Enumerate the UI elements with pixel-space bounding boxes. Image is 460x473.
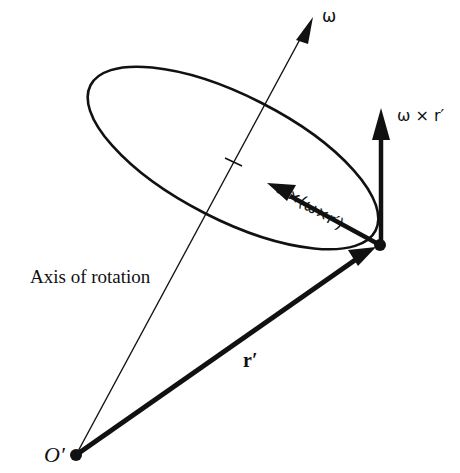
omega-cross-r-arrowhead-icon <box>372 108 390 140</box>
origin-point <box>70 449 82 461</box>
diagram-canvas <box>0 0 460 473</box>
rotation-circle <box>62 30 403 286</box>
axis-of-rotation-label: Axis of rotation <box>30 266 150 288</box>
rotation-axis-line <box>76 30 305 455</box>
rotating-point <box>374 239 386 251</box>
r-prime-label: r′ <box>243 349 258 372</box>
center-tick <box>225 158 242 166</box>
omega-label: ω <box>322 6 336 26</box>
omega-cross-r-label: ω × r′ <box>397 106 444 125</box>
axis-arrowhead-icon <box>296 17 313 44</box>
origin-label: O′ <box>44 442 65 468</box>
